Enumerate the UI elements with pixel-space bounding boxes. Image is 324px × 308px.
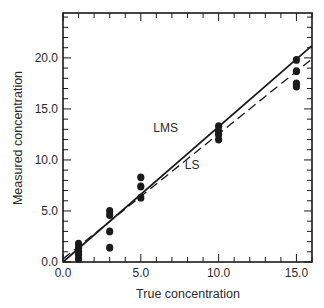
regression-lines — [63, 46, 312, 262]
y-tick-label: 15.0 — [35, 102, 59, 116]
x-tick-label: 15.0 — [285, 266, 309, 280]
data-point — [137, 173, 144, 181]
x-axis-title: True concentration — [136, 287, 240, 301]
x-tick-label: 10.0 — [207, 266, 231, 280]
y-tick-label: 5.0 — [41, 204, 58, 218]
data-point — [137, 194, 144, 202]
data-point — [106, 211, 113, 219]
y-axis-title: Measured concentration — [11, 71, 25, 205]
plot-border — [63, 13, 312, 262]
ls-label: LS — [185, 158, 200, 172]
data-point — [106, 244, 113, 252]
x-tick-label: 5.0 — [132, 266, 149, 280]
data-point — [293, 67, 300, 75]
axis-ticks — [63, 13, 312, 262]
lms-label: LMS — [153, 121, 178, 135]
y-tick-label: 10.0 — [35, 153, 59, 167]
y-tick-label: 0.0 — [41, 255, 58, 269]
data-point — [137, 183, 144, 191]
data-point — [215, 136, 222, 144]
data-point — [293, 56, 300, 64]
data-point — [293, 83, 300, 91]
chart: 0.05.010.015.00.05.010.015.020.0 LMSLS T… — [0, 0, 324, 308]
y-tick-label: 20.0 — [35, 51, 59, 65]
plot-frame — [63, 13, 312, 262]
data-point — [75, 255, 82, 263]
data-point — [106, 227, 113, 235]
